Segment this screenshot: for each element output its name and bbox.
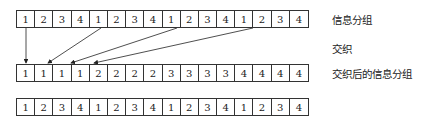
packet-cell: 3 xyxy=(199,65,217,81)
packet-cell: 2 xyxy=(35,11,53,27)
packet-cell: 1 xyxy=(72,65,90,81)
packet-cell: 3 xyxy=(163,65,181,81)
packet-cell: 3 xyxy=(53,99,71,115)
packet-cell: 1 xyxy=(235,99,253,115)
packet-cell: 4 xyxy=(217,11,235,27)
interleaved-packet-row: 1111222233334444 xyxy=(16,64,309,82)
packet-cell: 4 xyxy=(253,65,271,81)
packet-cell: 2 xyxy=(253,11,271,27)
packet-cell: 3 xyxy=(126,11,144,27)
packet-cell: 1 xyxy=(90,99,108,115)
packet-cell: 3 xyxy=(199,99,217,115)
packet-cell: 2 xyxy=(90,65,108,81)
packet-cell: 2 xyxy=(108,65,126,81)
packet-cell: 4 xyxy=(272,65,290,81)
packet-cell: 1 xyxy=(35,65,53,81)
packet-cell: 3 xyxy=(199,11,217,27)
packet-cell: 4 xyxy=(144,11,162,27)
packet-cell: 2 xyxy=(181,99,199,115)
packet-cell: 1 xyxy=(90,11,108,27)
packet-cell: 3 xyxy=(53,11,71,27)
interleaved-label: 交织后的信息分组 xyxy=(332,66,412,81)
packet-cell: 1 xyxy=(163,11,181,27)
original-label: 信息分组 xyxy=(332,12,372,27)
packet-cell: 2 xyxy=(126,65,144,81)
process-label: 交织 xyxy=(332,41,352,56)
packet-cell: 1 xyxy=(17,11,35,27)
packet-cell: 2 xyxy=(35,99,53,115)
third-packet-row: 1234123412341234 xyxy=(16,98,309,116)
packet-cell: 4 xyxy=(72,11,90,27)
packet-cell: 1 xyxy=(163,99,181,115)
packet-cell: 2 xyxy=(253,99,271,115)
packet-cell: 1 xyxy=(235,11,253,27)
packet-cell: 4 xyxy=(217,99,235,115)
packet-cell: 4 xyxy=(290,11,308,27)
packet-cell: 2 xyxy=(144,65,162,81)
packet-cell: 4 xyxy=(144,99,162,115)
packet-cell: 1 xyxy=(53,65,71,81)
packet-cell: 2 xyxy=(108,11,126,27)
packet-cell: 4 xyxy=(290,99,308,115)
packet-cell: 3 xyxy=(217,65,235,81)
packet-cell: 1 xyxy=(17,65,35,81)
packet-cell: 4 xyxy=(290,65,308,81)
packet-cell: 3 xyxy=(126,99,144,115)
packet-cell: 4 xyxy=(235,65,253,81)
packet-cell: 3 xyxy=(272,99,290,115)
packet-cell: 1 xyxy=(17,99,35,115)
packet-cell: 2 xyxy=(108,99,126,115)
packet-cell: 3 xyxy=(181,65,199,81)
packet-cell: 3 xyxy=(272,11,290,27)
packet-cell: 4 xyxy=(72,99,90,115)
packet-cell: 2 xyxy=(181,11,199,27)
original-packet-row: 1234123412341234 xyxy=(16,10,309,28)
